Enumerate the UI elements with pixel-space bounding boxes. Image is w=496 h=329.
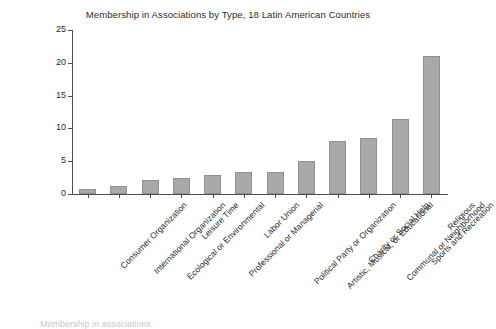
x-axis-tick-mark xyxy=(88,194,89,198)
bar xyxy=(360,138,377,194)
y-axis-tick-mark xyxy=(68,161,72,162)
y-axis-tick-mark xyxy=(68,96,72,97)
y-axis-tick-label: 0 xyxy=(44,188,66,198)
x-axis-tick-mark xyxy=(306,194,307,198)
bar xyxy=(267,172,284,194)
y-axis-tick-mark xyxy=(68,194,72,195)
bar xyxy=(392,119,409,194)
x-axis-tick-mark xyxy=(275,194,276,198)
x-axis-category-label: Consumer Organization xyxy=(118,200,189,271)
bar xyxy=(142,180,159,194)
x-axis-tick-mark xyxy=(400,194,401,198)
y-axis-tick-label: 15 xyxy=(44,90,66,100)
x-axis-line xyxy=(72,194,448,195)
x-axis-tick-mark xyxy=(150,194,151,198)
y-axis-tick-label: 25 xyxy=(44,24,66,34)
y-axis-tick-label: 5 xyxy=(44,155,66,165)
x-axis-tick-mark xyxy=(244,194,245,198)
bar xyxy=(298,161,315,194)
x-axis-category-label: International Organization xyxy=(151,200,227,276)
x-axis-tick-mark xyxy=(119,194,120,198)
bar xyxy=(329,141,346,194)
bar xyxy=(110,186,127,194)
chart-title: Membership in Associations by Type, 18 L… xyxy=(0,9,456,20)
chart-caption: Membership in associations xyxy=(40,319,340,329)
plot-area: 0510152025 xyxy=(72,30,447,194)
x-axis-tick-mark xyxy=(369,194,370,198)
bar xyxy=(204,175,221,194)
x-axis-tick-mark xyxy=(213,194,214,198)
bar xyxy=(235,172,252,194)
bar xyxy=(423,56,440,194)
x-axis-tick-mark xyxy=(431,194,432,198)
x-axis-tick-mark xyxy=(338,194,339,198)
y-axis-tick-mark xyxy=(68,30,72,31)
x-axis-tick-mark xyxy=(181,194,182,198)
y-axis-tick-label: 10 xyxy=(44,122,66,132)
y-axis-tick-mark xyxy=(68,63,72,64)
bar xyxy=(173,178,190,194)
y-axis-tick-mark xyxy=(68,128,72,129)
x-axis-category-label: Charity or Social Help xyxy=(366,200,431,265)
y-axis-tick-label: 20 xyxy=(44,57,66,67)
